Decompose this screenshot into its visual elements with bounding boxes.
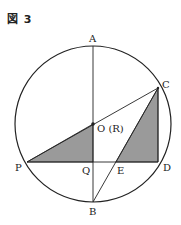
- label-a: A: [88, 33, 97, 44]
- label-c: C: [162, 79, 170, 90]
- geometry-diagram: A B C D E P Q O (R): [0, 0, 181, 225]
- label-o: O (R): [97, 123, 124, 134]
- label-p: P: [15, 162, 22, 173]
- label-b: B: [89, 206, 96, 217]
- center-point-o: [91, 122, 95, 126]
- label-d: D: [163, 162, 171, 173]
- label-e: E: [117, 165, 124, 176]
- point-c: [157, 87, 159, 89]
- label-q: Q: [82, 165, 90, 176]
